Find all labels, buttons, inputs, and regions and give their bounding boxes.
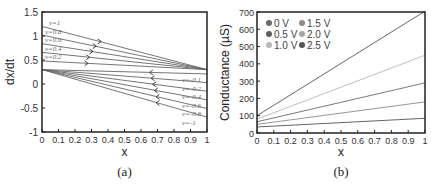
legend-marker-icon <box>266 42 272 48</box>
x-tick-label: 0.3 <box>85 135 98 145</box>
legend-label: 1.5 V <box>307 18 331 29</box>
series-label: v=0.4 <box>45 45 62 53</box>
x-tick-label: 0.6 <box>135 135 148 145</box>
y-tick-label: 600 <box>239 25 254 35</box>
x-tick-label: 0.7 <box>368 136 381 146</box>
series-label: v=-0.6 <box>182 102 201 110</box>
x-tick-label: 0.2 <box>69 135 82 145</box>
x-tick-label: 0.3 <box>301 136 314 146</box>
x-tick-label: 0 <box>254 136 259 146</box>
y-tick-label: -0.5 <box>21 103 39 114</box>
y-tick-label: 0.5 <box>24 55 38 66</box>
y-tick-label: 0 <box>32 79 38 90</box>
series-line <box>257 102 425 124</box>
y-tick-label: 1.5 <box>24 7 38 18</box>
legend-label: 2.5 V <box>307 40 331 51</box>
legend-label: 0.5 V <box>274 29 298 40</box>
x-tick-label: 0.7 <box>151 135 164 145</box>
panel-b: 700600500400300200100000.10.20.30.40.50.… <box>218 8 428 180</box>
legend-label: 2.0 V <box>307 29 331 40</box>
legend-label: 1.0 V <box>274 40 298 51</box>
legend-marker-icon <box>299 31 305 37</box>
legend-marker-icon <box>299 42 305 48</box>
y-tick-label: 400 <box>239 59 254 69</box>
panel-caption: (b) <box>333 164 348 179</box>
legend: 0 V0.5 V1.0 V1.5 V2.0 V2.5 V <box>266 18 331 51</box>
x-tick-label: 0 <box>39 135 44 145</box>
x-tick-label: 0.6 <box>352 136 365 146</box>
series-line <box>257 118 425 127</box>
legend-marker-icon <box>266 31 272 37</box>
x-tick-label: 0.9 <box>402 136 415 146</box>
y-axis-label: dx/dt <box>3 58 17 85</box>
series-label: v=1 <box>49 19 60 27</box>
x-axis-label: x <box>122 145 128 159</box>
y-tick-label: 0 <box>249 129 254 139</box>
y-tick-label: 1 <box>32 31 38 42</box>
y-tick-label: 100 <box>239 111 254 121</box>
x-axis-label: x <box>338 145 344 159</box>
series-label: v=-1 <box>182 119 196 127</box>
series-line <box>257 55 425 119</box>
x-tick-label: 1 <box>422 136 427 146</box>
figure: v=1v=0.8v=0.6v=0.4v=0.2v=-0.1v=-0.2v=-0.… <box>0 0 431 184</box>
series-line <box>257 83 425 122</box>
series-label: v=-0.8 <box>182 110 201 118</box>
series-label: v=0.6 <box>45 36 62 44</box>
y-tick-label: 300 <box>239 77 254 87</box>
x-tick-label: 0.4 <box>102 135 115 145</box>
x-tick-label: 0.9 <box>184 135 197 145</box>
panel-a: v=1v=0.8v=0.6v=0.4v=0.2v=-0.1v=-0.2v=-0.… <box>3 7 210 179</box>
y-tick-label: -1 <box>29 127 38 138</box>
x-tick-label: 0.1 <box>268 136 281 146</box>
x-tick-label: 0.5 <box>118 135 131 145</box>
x-tick-label: 0.2 <box>284 136 297 146</box>
x-tick-label: 1 <box>204 135 209 145</box>
series-line <box>42 35 207 70</box>
series-label: v=-0.2 <box>182 85 201 93</box>
series-label: v=0.2 <box>45 53 62 61</box>
panel-caption: (a) <box>117 164 131 179</box>
y-tick-label: 200 <box>239 94 254 104</box>
legend-marker-icon <box>299 20 305 26</box>
y-tick-label: 700 <box>239 8 254 18</box>
x-tick-label: 0.8 <box>168 135 181 145</box>
legend-label: 0 V <box>274 18 289 29</box>
legend-marker-icon <box>266 20 272 26</box>
series-label: v=-0.1 <box>182 76 201 84</box>
series-label: v=0.8 <box>45 28 62 36</box>
series-line <box>42 52 207 69</box>
x-tick-label: 0.1 <box>52 135 65 145</box>
series-label: v=-0.4 <box>182 93 201 101</box>
y-tick-label: 500 <box>239 42 254 52</box>
y-axis-label: Conductance (µS) <box>218 24 232 121</box>
x-tick-label: 0.8 <box>385 136 398 146</box>
x-tick-label: 0.4 <box>318 136 331 146</box>
